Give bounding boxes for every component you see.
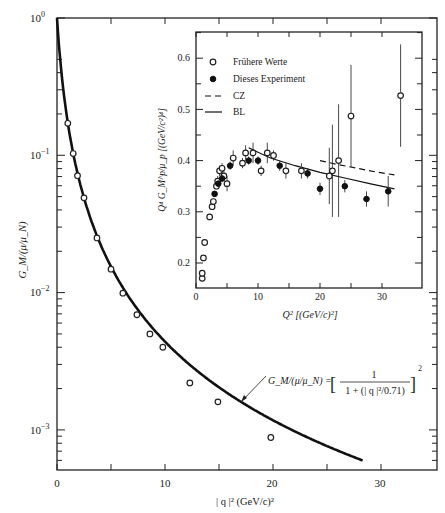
previous-value-point <box>219 165 225 171</box>
previous-value-point <box>230 155 236 161</box>
dipole-fit-curve <box>57 18 363 461</box>
inset-y-tick-label: 0.6 <box>178 52 191 63</box>
previous-value-point <box>202 240 208 246</box>
this-experiment-point <box>385 189 391 195</box>
formula-numerator: 1 <box>372 369 377 380</box>
data-point <box>108 266 114 272</box>
inset-x-axis-ticks <box>196 32 382 288</box>
legend-label-cz: CZ <box>233 91 245 101</box>
this-experiment-point <box>246 158 252 164</box>
previous-value-point <box>336 158 342 164</box>
legend-open-circle-icon <box>210 59 216 65</box>
previous-value-point <box>299 168 305 174</box>
inset-x-tick-label: 20 <box>315 291 325 302</box>
main-x-tick-label: 10 <box>160 477 172 489</box>
data-point <box>215 399 221 405</box>
main-y-tick-label: 10−3 <box>30 422 50 436</box>
this-experiment-point <box>305 171 311 177</box>
main-y-tick-label: 10−2 <box>30 284 50 298</box>
data-point <box>187 380 193 386</box>
main-y-axis-title: G_M/(μ/μ_N) <box>17 221 29 279</box>
this-experiment-point <box>364 196 370 202</box>
figure: 100 10−1 10−2 10−3 0 10 20 30 | q |² (Ge… <box>0 0 445 513</box>
chart-canvas: 100 10−1 10−2 10−3 0 10 20 30 | q |² (Ge… <box>0 0 445 513</box>
this-experiment-point <box>219 176 225 182</box>
formula-left-bracket: [ <box>330 374 336 394</box>
previous-value-point <box>398 93 404 99</box>
previous-value-point <box>258 168 264 174</box>
inset-y-tick-label: 0.2 <box>178 257 191 268</box>
main-x-tick-label: 20 <box>267 477 279 489</box>
data-point <box>94 235 100 241</box>
previous-value-point <box>224 181 230 187</box>
data-point <box>160 344 166 350</box>
inset-x-tick-label: 30 <box>377 291 387 302</box>
this-experiment-point <box>317 186 323 192</box>
previous-value-point <box>271 153 277 159</box>
inset-legend: Frühere Werte Dieses Experiment CZ BL <box>205 57 305 117</box>
previous-value-point <box>211 199 217 205</box>
inset-x-tick-label: 0 <box>194 291 199 302</box>
this-experiment-point <box>216 181 222 187</box>
previous-value-point <box>348 113 354 119</box>
formula-annotation: G_M/(μ/μ_N) = [ 1 1 + (| q |²/0.71) ] 2 <box>241 364 422 402</box>
main-chart: 100 10−1 10−2 10−3 0 10 20 30 | q |² (Ge… <box>17 10 437 508</box>
previous-value-point <box>201 255 207 261</box>
main-x-tick-label: 0 <box>54 477 60 489</box>
inset-y-tick-label: 0.4 <box>178 155 191 166</box>
data-point <box>65 121 71 127</box>
previous-value-point <box>283 168 289 174</box>
main-plot-frame <box>57 18 437 470</box>
data-point <box>268 435 274 441</box>
formula-exponent: 2 <box>418 364 422 373</box>
previous-value-point <box>243 150 249 156</box>
main-y-tick-label: 10−1 <box>30 147 50 161</box>
inset-y-tick-label: 0.5 <box>178 104 191 115</box>
previous-value-point <box>207 214 213 220</box>
data-point <box>134 312 140 318</box>
inset-y-tick-label: 0.3 <box>178 206 191 217</box>
main-data-points <box>65 121 274 441</box>
this-experiment-point <box>342 183 348 189</box>
this-experiment-point <box>212 191 218 197</box>
previous-value-point <box>240 160 246 166</box>
legend-label-bl: BL <box>233 107 245 117</box>
inset-y-axis-title: Q⁴ G_M^p/μ_p [(GeV/c²)⁴] <box>157 108 168 212</box>
data-point <box>81 195 87 201</box>
previous-value-point <box>330 168 336 174</box>
data-point <box>70 151 76 157</box>
inset-x-tick-label: 10 <box>253 291 263 302</box>
data-point <box>147 331 153 337</box>
previous-value-point <box>250 150 256 156</box>
main-x-axis-title: | q |² (GeV/c)² <box>216 496 274 508</box>
legend-label-fruhere-werte: Frühere Werte <box>233 57 287 67</box>
inset-chart: 0.2 0.3 0.4 0.5 0.6 0 10 20 30 Q² [(GeV/… <box>157 32 422 321</box>
legend-filled-circle-icon <box>210 76 216 82</box>
inset-plot-frame <box>196 32 422 288</box>
formula-lhs: G_M/(μ/μ_N) = <box>268 375 332 387</box>
previous-value-point <box>265 150 271 156</box>
this-experiment-point <box>277 163 283 169</box>
previous-value-point <box>199 270 205 276</box>
inset-x-axis-title: Q² [(GeV/c)²] <box>282 309 337 321</box>
formula-denominator: 1 + (| q |²/0.71) <box>345 385 405 397</box>
data-point <box>120 290 126 296</box>
formula-right-bracket: ] <box>410 374 416 394</box>
main-y-tick-label: 100 <box>30 10 45 24</box>
legend-label-dieses-experiment: Dieses Experiment <box>233 74 305 84</box>
data-point <box>75 173 81 179</box>
main-x-tick-label: 30 <box>375 477 387 489</box>
this-experiment-point <box>255 158 261 164</box>
inset-y-axis-ticks <box>196 33 422 263</box>
this-experiment-point <box>227 163 233 169</box>
